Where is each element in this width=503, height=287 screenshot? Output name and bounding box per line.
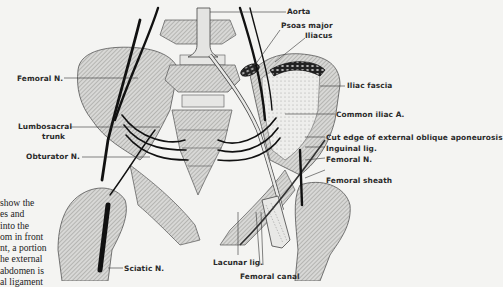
left-femur <box>58 188 126 281</box>
caption-line: om in front <box>0 231 47 242</box>
caption-line: show the <box>0 197 47 208</box>
sacrum <box>172 110 232 195</box>
caption-line: he external <box>0 253 47 264</box>
label-psoas-major: Psoas major <box>281 21 333 30</box>
label-obturator-nerve: Obturator N. <box>26 152 80 161</box>
label-femoral-nerve-left: Femoral N. <box>17 74 63 83</box>
label-femoral-sheath: Femoral sheath <box>326 176 392 185</box>
caption-line: nt, a portion <box>0 242 47 253</box>
caption-line: es and <box>0 208 47 219</box>
label-sciatic-nerve: Sciatic N. <box>124 264 164 273</box>
caption-line: al ligament <box>0 276 47 287</box>
right-femur <box>295 182 350 281</box>
label-aorta: Aorta <box>287 7 310 16</box>
label-lacunar-ligament: Lacunar lig. <box>213 258 263 267</box>
label-lumbosacral-trunk-line1: Lumbosacral <box>18 122 72 131</box>
left-pubis <box>130 165 200 245</box>
label-common-iliac-artery: Common iliac A. <box>336 110 405 119</box>
caption-line: abdomen is <box>0 265 47 276</box>
figure-caption: show the es and into the om in front nt,… <box>0 197 47 287</box>
label-inguinal-ligament: Inguinal lig. <box>326 144 377 153</box>
label-iliacus: Iliacus <box>305 31 333 40</box>
label-femoral-canal: Femoral canal <box>240 272 300 281</box>
caption-line: into the <box>0 220 47 231</box>
label-femoral-nerve-right: Femoral N. <box>326 155 372 164</box>
label-lumbosacral-trunk-line2: trunk <box>42 132 65 141</box>
label-iliac-fascia: Iliac fascia <box>347 81 392 90</box>
intervertebral-disc-2 <box>182 95 224 107</box>
label-cut-edge-external-oblique: Cut edge of external oblique aponeurosis <box>326 133 503 142</box>
